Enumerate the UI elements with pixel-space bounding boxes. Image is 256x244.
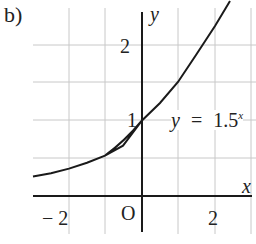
equation-exponent: x xyxy=(238,109,243,121)
origin-label: O xyxy=(121,203,135,223)
y-tick-1: 1 xyxy=(127,110,137,130)
x-tick-neg2: − 2 xyxy=(42,208,68,228)
equation-lhs: y xyxy=(171,109,180,131)
equation-label: y = 1.5x xyxy=(171,110,243,130)
part-label: b) xyxy=(4,4,22,26)
curve-1-5-pow-x xyxy=(33,1,230,177)
equation-base: 1.5 xyxy=(213,109,238,131)
y-axis-label: y xyxy=(150,4,159,24)
graph-figure: b) y x O − 2 2 2 1 y = 1.5x xyxy=(0,0,256,244)
equation-equals: = xyxy=(191,109,202,131)
x-axis-label: x xyxy=(242,176,251,196)
y-tick-2: 2 xyxy=(120,36,130,56)
x-tick-2: 2 xyxy=(208,208,218,228)
